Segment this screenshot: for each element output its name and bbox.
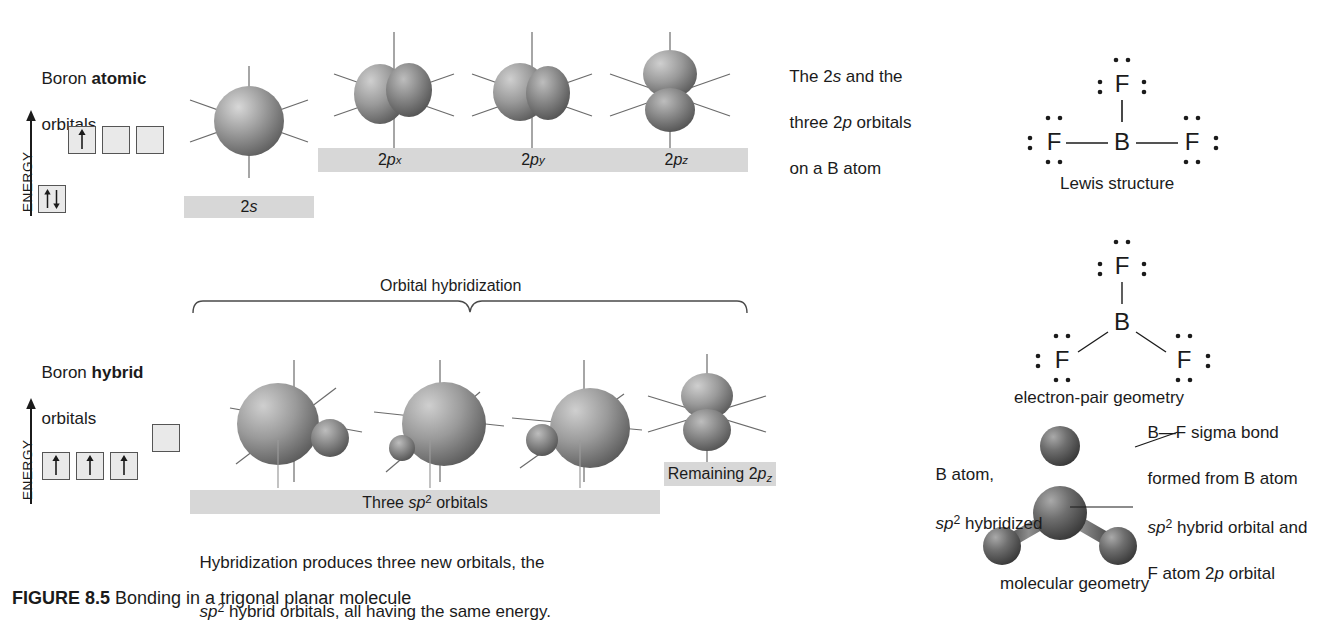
note-2s-2p-orbitals: The 2s and the three 2p orbitals on a B … — [780, 42, 911, 180]
hybrid-title-line1: Boron hybrid — [41, 363, 143, 382]
spin-up-arrow-icon — [111, 453, 137, 479]
atomic-energy-label: ENERGY — [20, 151, 35, 212]
spin-up-arrow-icon — [77, 453, 103, 479]
orbital-box-2px — [68, 126, 96, 154]
lewis-f-left: F — [1047, 128, 1062, 155]
epg-b-center: B — [1114, 308, 1130, 335]
hybrid-energy-label: ENERGY — [20, 439, 35, 500]
label-bar-2s: 2s — [184, 196, 314, 218]
hybrid-title-line2: orbitals — [41, 409, 96, 428]
label-bar-remaining-2pz: Remaining 2pz — [664, 462, 776, 486]
hybrid-box-sp2-2 — [76, 452, 104, 480]
lewis-f-right: F — [1185, 128, 1200, 155]
lewis-b-center: B — [1114, 128, 1130, 155]
epg-f-right: F — [1177, 346, 1192, 373]
figure-caption: FIGURE 8.5 Bonding in a trigonal planar … — [12, 588, 411, 609]
note-line3: on a B atom — [789, 159, 881, 178]
orbital-box-2s — [38, 185, 66, 213]
spin-up-arrow-icon — [43, 453, 69, 479]
epg-f-top: F — [1115, 252, 1130, 279]
sp2-bar-connectors — [190, 440, 670, 492]
atomic-orbitals-title: Boron atomic orbitals — [32, 44, 146, 136]
annotation-right-line4: F atom 2p orbital — [1147, 564, 1275, 583]
figure-caption-number: FIGURE 8.5 — [12, 588, 110, 608]
orbital-2px-render — [330, 30, 458, 150]
label-2s: 2s — [241, 198, 258, 216]
molecular-geometry-caption: molecular geometry — [1000, 572, 1149, 595]
label-2px: 2px — [318, 148, 461, 172]
label-bar-three-sp2: Three sp2 orbitals — [190, 490, 660, 514]
hybrid-orbitals-title: Boron hybrid orbitals — [32, 338, 144, 430]
spin-pair-arrows-icon — [39, 186, 65, 212]
note-line2: three 2p orbitals — [789, 113, 911, 132]
label-2py: 2py — [461, 148, 604, 172]
lewis-structure-diagram: F B F F — [1004, 24, 1244, 164]
annotation-left-line2: sp2 hybridized — [935, 514, 1042, 533]
annotation-b-atom-hybridized: B atom, sp2 hybridized — [926, 440, 1042, 535]
annotation-sigma-bond: B—F sigma bond formed from B atom sp2 hy… — [1138, 398, 1307, 585]
label-bar-2p-text-row: 2px 2py 2pz — [318, 148, 748, 172]
atomic-title-line1: Boron atomic — [41, 69, 146, 88]
orbital-box-2py — [102, 126, 130, 154]
orbital-box-2pz — [136, 126, 164, 154]
annotation-right-line1: B—F sigma bond — [1147, 423, 1278, 442]
orbital-2pz-render — [606, 30, 734, 150]
atom-f-right — [1099, 527, 1137, 565]
figure-caption-text: Bonding in a trigonal planar molecule — [115, 588, 411, 608]
spin-up-arrow-icon — [69, 127, 95, 153]
orbital-2s-render — [184, 62, 314, 182]
label-2pz: 2pz — [605, 148, 748, 172]
note-bottom-line1: Hybridization produces three new orbital… — [199, 553, 544, 572]
hybrid-box-sp2-1 — [42, 452, 70, 480]
lewis-structure-caption: Lewis structure — [1060, 172, 1174, 195]
lewis-f-top: F — [1115, 70, 1130, 97]
label-remaining-2pz: Remaining 2pz — [668, 465, 773, 484]
note-line1: The 2s and the — [789, 67, 902, 86]
bracket-label: Orbital hybridization — [380, 274, 521, 297]
hybridization-brace — [190, 296, 750, 316]
hybrid-box-sp2-3 — [110, 452, 138, 480]
hybrid-box-empty-2pz — [152, 424, 180, 452]
annotation-right-line2: formed from B atom — [1147, 469, 1297, 488]
annotation-left-line1: B atom, — [935, 465, 994, 484]
epg-f-left: F — [1055, 346, 1070, 373]
electron-pair-geometry-diagram: F B F F — [1004, 212, 1244, 362]
label-three-sp2: Three sp2 orbitals — [362, 493, 488, 512]
annotation-right-line3: sp2 hybrid orbital and — [1147, 518, 1307, 537]
orbital-2py-render — [468, 30, 596, 150]
